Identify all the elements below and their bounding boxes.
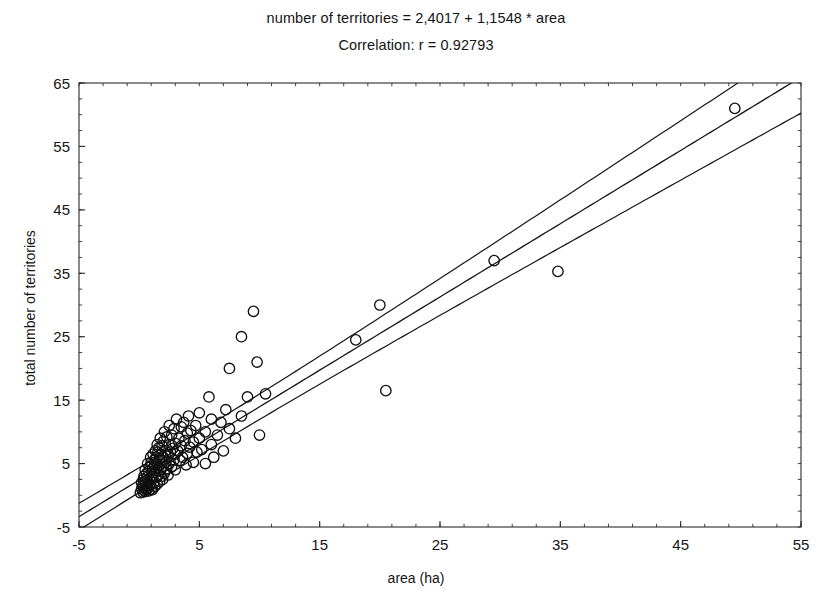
y-tick-label: 25 (53, 328, 70, 345)
data-point-marker (194, 408, 204, 418)
confidence-band-lower (79, 113, 801, 530)
x-tick-label: -5 (72, 536, 85, 553)
x-tick-label: 5 (195, 536, 203, 553)
y-axis-title: total number of territories (22, 188, 38, 428)
x-tick-label: 15 (311, 536, 328, 553)
data-point-marker (218, 446, 228, 456)
data-point-marker (221, 404, 231, 414)
data-point-marker (206, 414, 216, 424)
data-point-marker (254, 430, 264, 440)
data-point-marker (381, 385, 391, 395)
data-point-marker (553, 266, 563, 276)
y-tick-label: -5 (57, 519, 70, 536)
data-point-marker (375, 300, 385, 310)
regression-line (79, 77, 801, 516)
y-tick-label: 55 (53, 138, 70, 155)
data-point-marker (730, 103, 740, 113)
y-tick-label: 15 (53, 392, 70, 409)
data-point-marker (236, 332, 246, 342)
data-point-marker (194, 433, 204, 443)
x-tick-label: 35 (552, 536, 569, 553)
data-points (135, 103, 740, 498)
data-point-marker (209, 452, 219, 462)
x-tick-label: 55 (793, 536, 810, 553)
x-tick-label: 45 (672, 536, 689, 553)
y-tick-label: 65 (53, 75, 70, 92)
plot-canvas: -551525354555-55152535455565 (0, 0, 832, 607)
data-point-marker (252, 357, 262, 367)
scatter-plot-figure: number of territories = 2,4017 + 1,1548 … (0, 0, 832, 607)
data-point-marker (224, 363, 234, 373)
data-point-marker (248, 306, 258, 316)
y-tick-label: 45 (53, 201, 70, 218)
y-tick-label: 5 (62, 455, 70, 472)
data-point-marker (204, 392, 214, 402)
x-axis-title: area (ha) (0, 570, 832, 586)
x-tick-label: 25 (432, 536, 449, 553)
data-point-marker (230, 433, 240, 443)
data-point-marker (242, 392, 252, 402)
data-point-marker (351, 335, 361, 345)
axis-ticks: -551525354555-55152535455565 (53, 75, 809, 554)
y-tick-label: 35 (53, 265, 70, 282)
